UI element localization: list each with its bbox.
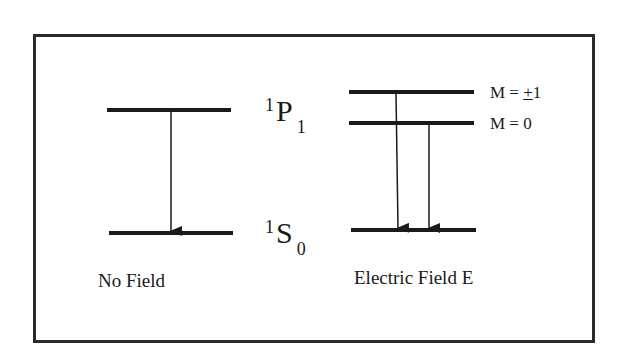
term-1s0-j: 0 [297, 239, 306, 259]
energy-level-diagram [0, 0, 621, 359]
term-1p1-label: 1P1 [265, 96, 306, 130]
no-field-caption: No Field [98, 271, 165, 291]
m-0-label: M = 0 [490, 115, 532, 133]
term-1s0-label: 1S0 [265, 218, 306, 252]
term-1s0-multiplicity: 1 [265, 217, 274, 237]
m-pm1-label: M = +1 [490, 84, 541, 102]
m-pm1-value: 1 [533, 83, 542, 102]
field-transition-arrow-m-pm1 [396, 93, 398, 228]
term-1p1-j: 1 [297, 117, 306, 137]
plus-minus-sign: + [523, 83, 533, 102]
term-1s0-letter: S [276, 216, 293, 249]
electric-field-caption: Electric Field E [354, 268, 473, 288]
m-pm1-prefix: M = [490, 83, 523, 102]
term-1p1-letter: P [276, 94, 293, 127]
term-1p1-multiplicity: 1 [265, 95, 274, 115]
